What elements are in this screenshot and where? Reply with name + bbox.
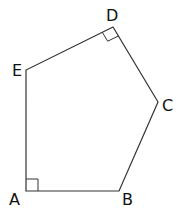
vertex-label-a: A (9, 190, 20, 209)
vertex-label-b: B (122, 190, 133, 209)
vertex-label-d: D (106, 6, 118, 25)
vertex-label-c: C (162, 96, 173, 115)
vertex-label-e: E (12, 61, 22, 80)
pentagon-shape (26, 27, 158, 191)
right-angle-marker-a (26, 179, 38, 191)
pentagon-diagram: A B C D E (0, 0, 184, 217)
right-angle-marker-d (102, 32, 118, 41)
